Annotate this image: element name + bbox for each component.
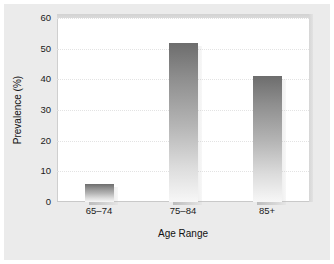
y-tick-label: 10 bbox=[40, 167, 51, 177]
y-tick-label: 50 bbox=[40, 44, 51, 54]
x-tick-label: 75–84 bbox=[170, 206, 196, 216]
y-tick-label: 20 bbox=[40, 136, 51, 146]
y-tick-label: 30 bbox=[40, 105, 51, 115]
y-tick-label: 0 bbox=[46, 197, 51, 207]
bar bbox=[85, 184, 114, 202]
y-tick-label: 40 bbox=[40, 75, 51, 85]
gridline bbox=[57, 18, 309, 20]
x-axis-title: Age Range bbox=[57, 228, 309, 239]
bar bbox=[253, 76, 282, 202]
x-tick-label: 85+ bbox=[259, 206, 275, 216]
y-axis-title: Prevalence (%) bbox=[12, 18, 26, 202]
bar bbox=[169, 43, 198, 202]
plot-right-shadow bbox=[309, 14, 313, 202]
y-tick-label: 60 bbox=[40, 13, 51, 23]
plot-area: 0102030405060 bbox=[57, 18, 309, 202]
chart-figure: 0102030405060 65–7475–8485+ Age Range Pr… bbox=[0, 0, 334, 264]
x-tick-label: 65–74 bbox=[86, 206, 112, 216]
